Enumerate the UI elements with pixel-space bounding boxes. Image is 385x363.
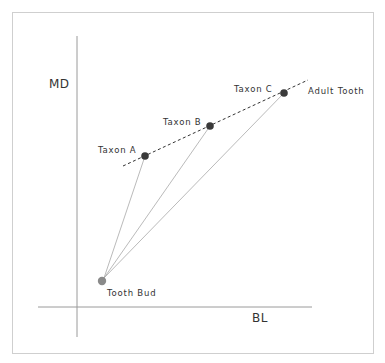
taxon-a-point [141, 152, 149, 160]
diagram-canvas [0, 0, 385, 363]
taxon-b-point [206, 122, 214, 130]
taxon-a-label: Taxon A [98, 146, 136, 155]
tooth-bud-point [98, 277, 106, 285]
taxon-c-point [280, 89, 288, 97]
x-axis-label: BL [252, 312, 268, 324]
taxon-c-label: Taxon C [234, 85, 273, 94]
y-axis-label: MD [49, 78, 70, 90]
tooth-bud-label: Tooth Bud [107, 289, 156, 298]
taxon-b-label: Taxon B [163, 118, 201, 127]
growth-line-taxon-a [104, 156, 145, 278]
adult-tooth-label: Adult Tooth [308, 87, 365, 96]
